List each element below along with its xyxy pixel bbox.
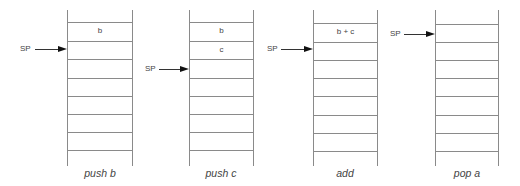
stack-divider [67,96,133,97]
sp-label: SP [20,44,31,54]
stack-divider [189,78,254,79]
arrow-shaft [281,49,305,50]
stack-divider [67,78,133,79]
stack-divider [313,133,378,134]
caption-push-b: push b [60,167,140,179]
stack-divider [189,59,254,60]
stack-divider [435,78,499,79]
stack-right-edge [498,10,499,166]
stack-divider [313,23,378,24]
stack-pointer-push-c: SP [145,64,189,74]
arrow-shaft [404,34,427,35]
sp-label: SP [145,64,156,74]
stack-divider [189,114,254,115]
stack-divider [67,150,133,151]
arrow-right-icon [180,66,189,72]
stack-divider [313,151,378,152]
stack-divider [189,22,254,23]
stack-divider [67,41,133,42]
stack-cell-1: c [189,45,254,54]
caption-add: add [305,167,385,179]
stack-divider [435,115,499,116]
caption-pop-a: pop a [427,167,507,179]
stack-divider [67,114,133,115]
stack-pointer-add: SP [267,44,313,54]
stack-divider [67,132,133,133]
stack-divider [435,96,499,97]
stack-divider [313,42,378,43]
stack-divider [435,133,499,134]
stack-divider [67,22,133,23]
stack-pointer-pop-a: SP [390,29,435,39]
stack-divider [435,60,499,61]
stack-push-c: b c [189,10,254,166]
stack-divider [189,41,254,42]
stack-divider [313,115,378,116]
stack-cell-0: b [67,26,133,35]
arrow-right-icon [304,46,313,52]
stack-push-b: b [67,10,133,166]
stack-divider [313,60,378,61]
stack-cell-0: b [189,26,254,35]
arrow-shaft [35,49,59,50]
arrow-right-icon [426,31,435,37]
sp-label: SP [390,29,401,39]
stack-divider [189,150,254,151]
stack-divider [189,96,254,97]
stack-divider [189,132,254,133]
stack-pop-a [435,10,499,166]
stack-divider [435,151,499,152]
stack-divider [435,24,499,25]
stack-divider [435,42,499,43]
stack-pointer-push-b: SP [20,44,67,54]
stack-cell-0: b + c [313,27,378,36]
stack-divider [67,59,133,60]
caption-push-c: push c [181,167,261,179]
stack-divider [313,96,378,97]
sp-label: SP [267,44,278,54]
stack-divider [313,78,378,79]
arrow-right-icon [58,46,67,52]
stack-add: b + c [313,10,378,166]
stack-left-edge [435,10,436,166]
arrow-shaft [159,69,181,70]
